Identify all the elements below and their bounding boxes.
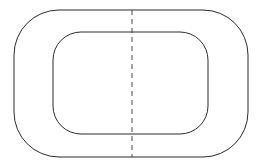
technical-drawing-canvas <box>0 0 262 168</box>
inner-rounded-rectangle <box>53 32 208 134</box>
drawing-svg <box>0 0 262 168</box>
